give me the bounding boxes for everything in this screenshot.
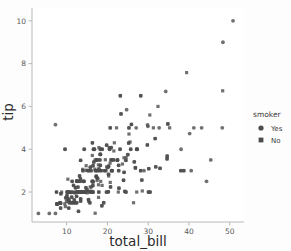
data-point	[64, 205, 67, 208]
data-point	[129, 148, 132, 151]
data-point	[47, 212, 51, 216]
data-point	[96, 158, 99, 161]
data-point	[108, 148, 111, 151]
data-point	[179, 169, 182, 172]
plot-background	[32, 8, 244, 222]
data-point	[146, 123, 150, 127]
data-point	[132, 201, 135, 204]
data-point	[83, 190, 86, 193]
data-point	[139, 94, 142, 97]
data-point	[64, 196, 67, 199]
data-point	[77, 210, 80, 213]
data-point	[54, 212, 58, 216]
data-point	[108, 162, 111, 165]
data-point	[66, 178, 69, 181]
data-point	[79, 199, 82, 202]
data-point	[112, 149, 115, 152]
data-point	[121, 162, 124, 165]
data-point	[126, 153, 129, 156]
data-point	[220, 126, 224, 130]
data-point	[200, 126, 204, 130]
y-axis-ticks: 246810	[16, 17, 32, 197]
data-point	[90, 190, 93, 193]
chart-canvas: 1020304050 246810 total_bill tip smoker …	[0, 0, 291, 251]
legend-label-yes: Yes	[270, 125, 283, 133]
data-point	[100, 204, 103, 207]
data-point	[157, 126, 161, 130]
data-point	[97, 183, 100, 186]
data-point	[91, 164, 94, 167]
y-tick-label: 8	[21, 59, 26, 68]
x-axis-title: total_bill	[109, 233, 166, 249]
data-point	[134, 126, 138, 130]
data-point	[154, 137, 157, 140]
data-point	[117, 169, 120, 172]
data-point	[113, 141, 116, 144]
data-point	[148, 113, 151, 116]
data-point	[77, 190, 80, 193]
data-point	[56, 202, 59, 205]
data-point	[95, 175, 98, 178]
data-point	[209, 158, 213, 162]
data-point	[78, 180, 81, 183]
data-point	[135, 190, 138, 193]
legend-entry-no[interactable]: No	[259, 137, 281, 145]
data-point	[165, 157, 168, 160]
data-point	[189, 169, 193, 173]
data-point	[109, 158, 112, 161]
data-point	[75, 195, 78, 198]
data-point	[147, 190, 150, 193]
scatter-plot-figure: 1020304050 246810 total_bill tip smoker …	[0, 0, 291, 251]
legend-entry-yes[interactable]: Yes	[258, 125, 282, 133]
data-point	[89, 169, 92, 172]
data-point	[117, 187, 120, 190]
data-point	[136, 148, 139, 151]
data-point	[231, 19, 235, 23]
data-point	[192, 126, 196, 130]
data-point	[109, 126, 112, 129]
legend-title: smoker	[253, 110, 281, 119]
data-point	[100, 184, 103, 187]
data-point	[158, 167, 161, 170]
data-point	[107, 173, 110, 176]
y-tick-label: 6	[21, 102, 26, 111]
data-point	[99, 164, 102, 167]
data-point	[221, 40, 225, 44]
data-point	[182, 169, 185, 172]
y-tick-label: 10	[16, 17, 26, 26]
data-point	[168, 126, 171, 129]
data-point	[70, 196, 73, 199]
data-point	[91, 180, 94, 183]
data-point	[84, 186, 87, 189]
data-point	[88, 201, 91, 204]
data-point	[221, 89, 224, 92]
data-point	[91, 184, 94, 187]
data-point	[134, 166, 137, 169]
data-point	[99, 180, 102, 183]
y-tick-label: 2	[21, 188, 26, 197]
data-point	[127, 132, 130, 135]
data-point	[122, 179, 125, 182]
data-point	[37, 212, 41, 216]
data-point	[101, 148, 104, 151]
y-axis-title: tip	[0, 103, 16, 121]
data-point	[98, 158, 101, 161]
y-tick-label: 4	[21, 145, 26, 154]
data-point	[65, 190, 68, 193]
data-point	[115, 126, 118, 129]
data-point	[54, 123, 58, 127]
data-point	[124, 159, 127, 162]
data-point	[166, 154, 169, 157]
data-point	[105, 190, 108, 193]
data-point	[74, 186, 77, 189]
data-point	[140, 178, 143, 181]
data-point	[164, 90, 168, 94]
data-point	[119, 112, 122, 115]
data-point	[130, 123, 133, 126]
data-point	[139, 169, 142, 172]
data-point	[91, 141, 94, 144]
data-point	[67, 199, 70, 202]
data-point	[156, 105, 159, 108]
data-point	[59, 192, 62, 195]
data-point	[101, 169, 104, 172]
